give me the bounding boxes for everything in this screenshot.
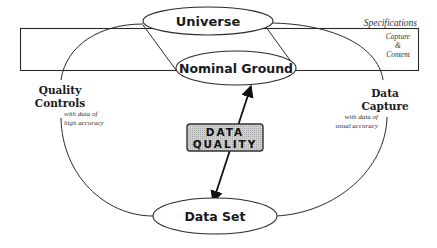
data-capture-note2: usual accuracy: [335, 122, 378, 130]
node-universe: Universe: [143, 7, 273, 35]
data-quality-line2: QUALITY: [193, 138, 258, 150]
data-capture-line1: Data: [371, 87, 399, 99]
left-arc-upper: [61, 24, 143, 80]
right-arc-lower: [276, 117, 387, 216]
nominal-ground-label: Nominal Ground: [179, 61, 293, 76]
specifications-line3: Content: [386, 50, 411, 59]
data-capture-note1: with data of: [345, 113, 380, 121]
quality-controls-note1: with data of: [64, 110, 99, 118]
data-set-label: Data Set: [184, 209, 245, 224]
specifications-line1: Capture: [386, 32, 411, 41]
quality-controls-note2: high accuracy: [64, 119, 105, 127]
specifications-title: Specifications: [364, 18, 418, 28]
quality-controls-line2: Controls: [35, 97, 85, 109]
data-quality-diagram: Universe Nominal Ground DATA QUALITY Dat…: [0, 0, 437, 248]
data-quality-line1: DATA: [206, 126, 245, 138]
left-arc-lower: [61, 118, 153, 216]
node-nominal-ground: Nominal Ground: [176, 51, 296, 85]
data-quality-box: DATA QUALITY: [187, 124, 263, 151]
data-capture-line2: Capture: [361, 100, 409, 112]
specifications-line2: &: [395, 41, 401, 50]
quality-controls-line1: Quality: [39, 84, 82, 97]
node-data-set: Data Set: [153, 198, 277, 234]
universe-label: Universe: [176, 14, 241, 29]
